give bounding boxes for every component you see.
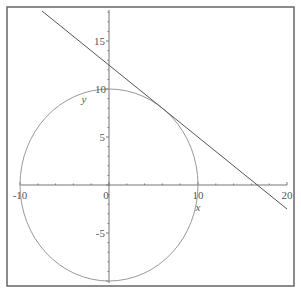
y-tick-label-10: 10 (95, 83, 107, 95)
origin-label: 0 (103, 189, 109, 201)
y-tick-label-5: 5 (100, 131, 106, 143)
y-tick-label-15: 15 (94, 35, 106, 47)
y-tick-label-neg5: -5 (96, 227, 106, 239)
x-tick-label-10: 10 (193, 189, 205, 201)
x-tick-label-neg10: -10 (13, 189, 28, 201)
plot-area: -10 0 10 20 -5 5 10 15 x y (0, 0, 301, 295)
plot-frame (7, 7, 294, 286)
x-tick-label-20: 20 (282, 189, 294, 201)
x-axis-label: x (195, 201, 201, 213)
y-axis-label: y (81, 93, 87, 105)
